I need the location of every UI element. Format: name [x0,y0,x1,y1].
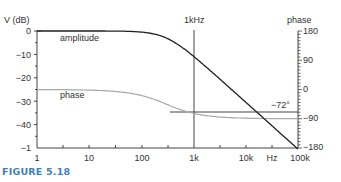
right-ticks [298,31,302,148]
1khz-label: 1kHz [184,15,205,25]
x-axis-unit: Hz [267,153,278,163]
y-tick-30: −30 [16,97,31,107]
y-tick-10: −10 [16,50,31,60]
x-tick-1: 1 [34,153,39,163]
x-tick-100: 100 [134,153,149,163]
phase-label: phase [60,90,85,100]
phase-axis-label: phase [287,15,312,25]
y-tick-0: 0 [26,26,31,36]
phase-tick-minus-90: −90 [303,113,318,123]
y-axis-label: V (dB) [4,15,30,25]
phase-tick-90: 90 [303,55,313,65]
phase-tick-180: 180 [303,26,318,36]
bode-plot: V (dB) 0 −10 −20 −30 −40 −1 1 10 100 1k … [0,0,341,182]
phase-tick-0: 0 [303,84,308,94]
y-tick-40: −40 [16,120,31,130]
amplitude-label: amplitude [60,33,99,43]
x-tick-100k: 100k [290,153,310,163]
x-tick-10: 10 [84,153,94,163]
figure-caption: FIGURE 5.18 [2,166,70,177]
y-tick-20: −20 [16,73,31,83]
x-tick-10k: 10k [239,153,254,163]
phase-tick-minus-180: −180 [303,142,323,152]
y-tick-50: −1 [21,143,31,153]
minus-72-label: −72° [271,100,290,110]
x-tick-1k: 1k [189,153,199,163]
